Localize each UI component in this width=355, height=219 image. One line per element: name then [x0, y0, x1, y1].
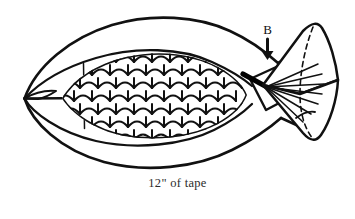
tail-point-b-label: B	[263, 22, 272, 37]
figure-root: B 12" of tape	[0, 0, 355, 219]
figure-caption: 12" of tape	[0, 176, 355, 191]
